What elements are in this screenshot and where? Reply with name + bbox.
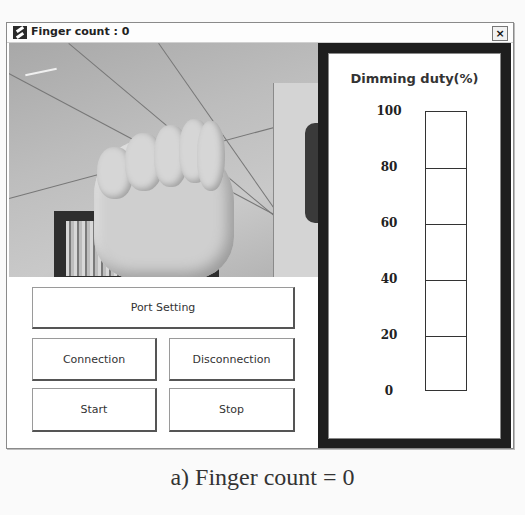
figure-caption: a) Finger count = 0: [0, 464, 525, 491]
title-bar[interactable]: Finger count : 0 ×: [7, 23, 513, 43]
start-button[interactable]: Start: [32, 388, 157, 432]
tick-0: 0: [369, 384, 409, 398]
tick-40: 40: [369, 272, 409, 286]
thumb: [197, 121, 225, 191]
dimming-panel-inner: Dimming duty(%) 100 80 60 40 20 0: [328, 53, 501, 439]
tick-60: 60: [369, 216, 409, 230]
disconnection-button[interactable]: Disconnection: [169, 338, 295, 381]
control-buttons: Port Setting Connection Disconnection St…: [9, 277, 319, 447]
bar-divider-80: [426, 168, 466, 169]
app-window: Finger count : 0 × Port Setting Connecti…: [6, 22, 514, 449]
bar-divider-20: [426, 336, 466, 337]
dimming-title: Dimming duty(%): [329, 71, 500, 86]
dimming-duty-panel: Dimming duty(%) 100 80 60 40 20 0: [318, 43, 511, 448]
light-fixture: [25, 68, 57, 77]
bar-divider-60: [426, 224, 466, 225]
dark-object: [305, 123, 319, 223]
stop-button[interactable]: Stop: [169, 388, 295, 432]
window-title: Finger count : 0: [31, 25, 129, 38]
app-icon: [13, 26, 27, 39]
tick-100: 100: [369, 104, 409, 118]
close-button[interactable]: ×: [492, 26, 508, 41]
camera-feed: [9, 43, 319, 277]
duty-bar-gauge: [425, 111, 467, 391]
port-setting-button[interactable]: Port Setting: [32, 287, 295, 329]
bar-divider-40: [426, 280, 466, 281]
tick-80: 80: [369, 160, 409, 174]
tick-20: 20: [369, 328, 409, 342]
connection-button[interactable]: Connection: [32, 338, 157, 381]
